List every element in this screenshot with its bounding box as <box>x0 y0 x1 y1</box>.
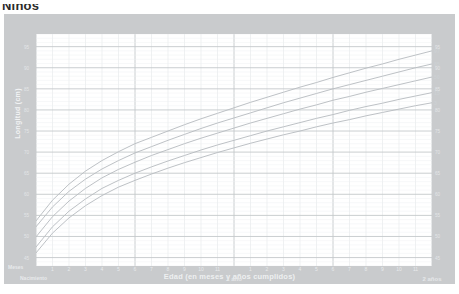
y-tick-label-left: 80 <box>24 107 29 112</box>
y-tick-label-right: 45 <box>435 255 440 260</box>
growth-chart-page: Niños Longitud (cm) Edad (en meses y año… <box>0 0 459 294</box>
x-tick-month: 7 <box>150 266 153 272</box>
y-tick-label-left: 85 <box>24 86 29 91</box>
x-tick-month: 6 <box>332 266 335 272</box>
x-tick-month: 10 <box>198 266 204 272</box>
y-tick-label-right: 50 <box>435 234 440 239</box>
x-tick-month: 2 <box>266 266 269 272</box>
percentile-label: 15 <box>434 90 440 96</box>
y-tick-label-right: 55 <box>435 213 440 218</box>
x-tick-month: 4 <box>101 266 104 272</box>
y-tick-label-right: 75 <box>435 129 440 134</box>
y-tick-label-left: 70 <box>24 150 29 155</box>
x-tick-month: 8 <box>167 266 170 272</box>
x-tick-month: 5 <box>315 266 318 272</box>
percentile-label: 50 <box>434 74 440 80</box>
x-tick-month: 9 <box>183 266 186 272</box>
x-tick-month: 1 <box>249 266 252 272</box>
page-title: Niños <box>2 0 39 13</box>
x-tick-month: 8 <box>365 266 368 272</box>
plot-area <box>36 34 432 266</box>
x-tick-month: 4 <box>299 266 302 272</box>
x-tick-month: 11 <box>215 266 220 272</box>
y-tick-label-left: 90 <box>24 65 29 70</box>
y-tick-label-right: 60 <box>435 192 440 197</box>
y-tick-label-left: 95 <box>24 44 29 49</box>
y-tick-label-right: 70 <box>435 150 440 155</box>
x-tick-month: 5 <box>117 266 120 272</box>
chart-card: Longitud (cm) Edad (en meses y años cump… <box>4 14 455 284</box>
percentile-label: 97 <box>434 48 440 54</box>
x-era-label: 1 año <box>226 276 242 282</box>
x-tick-month: 9 <box>381 266 384 272</box>
x-tick-month: 11 <box>413 266 418 272</box>
y-tick-label-left: 45 <box>24 255 29 260</box>
x-axis-unit-label: Meses <box>8 264 23 270</box>
x-tick-month: 3 <box>84 266 87 272</box>
y-axis-title: Longitud (cm) <box>14 59 21 169</box>
y-tick-label-right: 80 <box>435 107 440 112</box>
x-tick-month: 7 <box>348 266 351 272</box>
x-tick-month: 10 <box>396 266 402 272</box>
y-tick-label-left: 55 <box>24 213 29 218</box>
y-tick-label-left: 65 <box>24 171 29 176</box>
x-tick-month: 6 <box>134 266 137 272</box>
x-tick-month: 2 <box>68 266 71 272</box>
percentile-label: 85 <box>434 61 440 67</box>
plot-svg <box>36 34 432 266</box>
birth-label: Nacimiento <box>20 275 47 281</box>
x-tick-month: 1 <box>51 266 54 272</box>
y-tick-label-right: 65 <box>435 171 440 176</box>
percentile-label: 3 <box>434 100 437 106</box>
y-tick-label-left: 75 <box>24 129 29 134</box>
y-tick-label-left: 50 <box>24 234 29 239</box>
y-tick-label-left: 60 <box>24 192 29 197</box>
x-era-label: 2 años <box>422 276 441 282</box>
x-tick-month: 3 <box>282 266 285 272</box>
